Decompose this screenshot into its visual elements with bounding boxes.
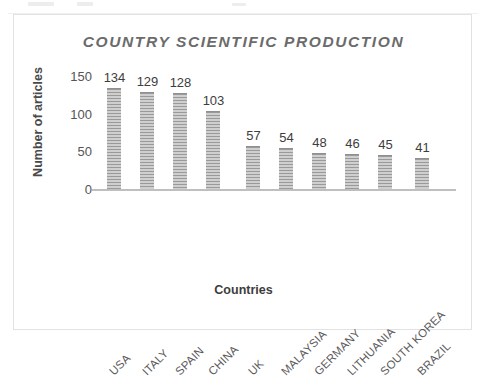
bar-brazil[interactable] (415, 158, 429, 189)
bar-spain[interactable] (173, 93, 187, 189)
bar-value-label: 128 (163, 75, 198, 90)
y-tick-label: 150 (48, 69, 92, 84)
y-tick-label: 100 (48, 107, 92, 122)
bar-uk[interactable] (246, 146, 260, 189)
bar-south-korea[interactable] (378, 155, 392, 189)
chart-container: COUNTRY SCIENTIFIC PRODUCTION Number of … (13, 14, 472, 330)
y-tick-label: 50 (48, 144, 92, 159)
bar-value-label: 103 (196, 93, 231, 108)
bar-lithuania[interactable] (345, 154, 359, 189)
bar-value-label: 57 (236, 128, 271, 143)
bar-malaysia[interactable] (279, 148, 293, 189)
x-tick-label-brazil: BRAZIL (415, 340, 453, 378)
bar-value-label: 54 (269, 130, 304, 145)
x-tick-label-uk: UK (246, 357, 266, 377)
bar-value-label: 48 (302, 135, 337, 150)
bar-value-label: 45 (368, 137, 403, 152)
bar-value-label: 46 (335, 136, 370, 151)
bar-china[interactable] (206, 111, 220, 189)
x-tick-label-usa: USA (107, 352, 133, 378)
bar-value-label: 129 (130, 74, 165, 89)
bar-usa[interactable] (107, 88, 121, 189)
y-axis-title: Number of articles (31, 57, 45, 187)
bar-value-label: 134 (97, 70, 132, 85)
x-tick-label-south-korea: SOUTH KOREA (378, 308, 447, 377)
bar-germany[interactable] (312, 153, 326, 189)
bar-value-label: 41 (405, 140, 440, 155)
x-tick-label-italy: ITALY (140, 347, 171, 378)
x-axis-title: Countries (14, 283, 473, 297)
x-tick-label-china: CHINA (206, 343, 240, 377)
x-axis-line (92, 189, 456, 191)
x-tick-label-spain: SPAIN (173, 344, 206, 377)
bar-italy[interactable] (140, 92, 154, 189)
y-tick-label: 0 (48, 182, 92, 197)
